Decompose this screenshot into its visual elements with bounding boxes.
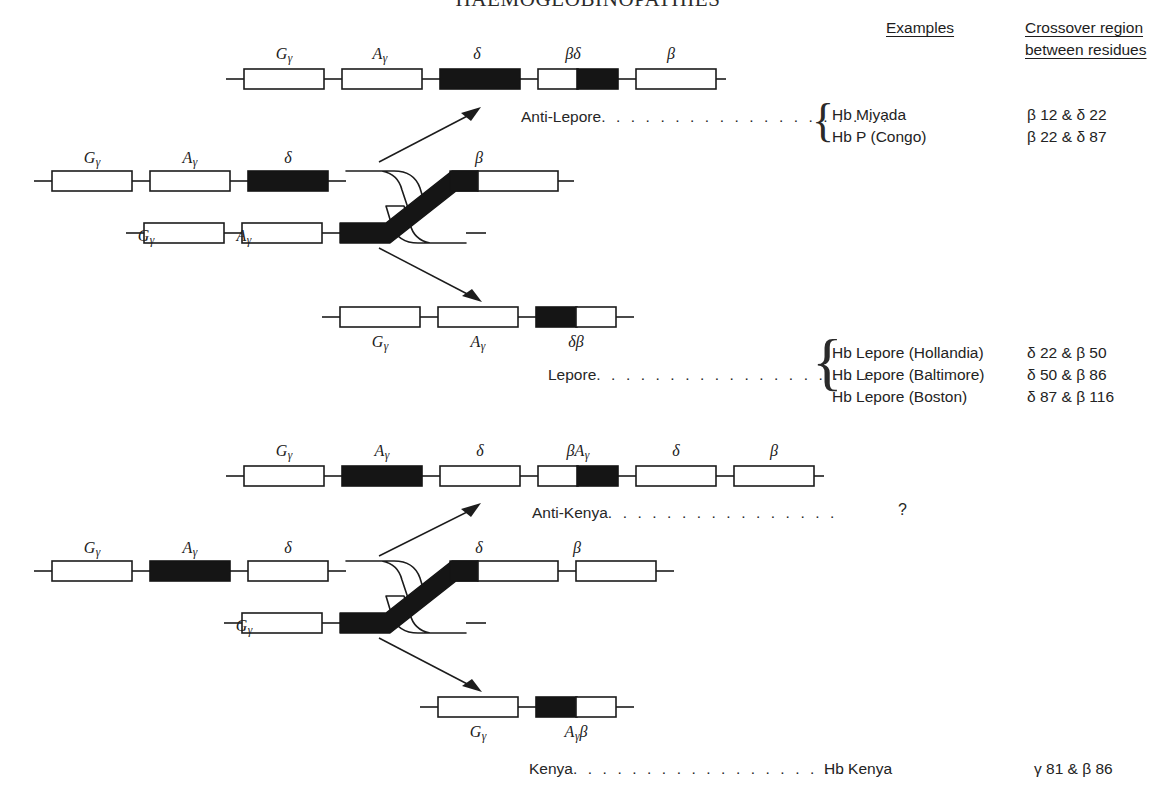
gene-label-a-gamma: Aγ <box>373 46 388 65</box>
gene-label-delta: δ <box>476 443 483 459</box>
gene-label-beta: β <box>475 150 483 166</box>
gene-label-g-gamma: Gγ <box>84 540 101 559</box>
crossover-value: δ 87 & β 116 <box>1027 388 1114 406</box>
gene-label-a-gamma: Aγ <box>471 334 486 353</box>
arrow-to-lepore <box>375 244 487 306</box>
gene-label-delta: δ <box>473 46 480 62</box>
parent-chromosomes-kenya <box>34 558 674 640</box>
parent-chromosomes-lepore <box>34 168 574 250</box>
gene-label-g-gamma: Gγ <box>470 724 487 743</box>
gene-label-beta: β <box>667 46 675 62</box>
anti-kenya-path-label: Anti-Kenya. . . . . . . . . . . . . . . … <box>532 504 837 522</box>
example-name: Hb Lepore (Baltimore) <box>832 366 984 384</box>
examples-column-header: Examples <box>886 20 954 36</box>
gene-label-delta: δ <box>475 540 482 556</box>
gene-label-delta-beta: δβ <box>568 334 583 350</box>
figure-title: HAEMOGLOBINOPATHIES <box>0 0 1176 12</box>
example-name: Hb Lepore (Hollandia) <box>832 344 984 362</box>
gene-label-g-gamma: Gγ <box>372 334 389 353</box>
kenya-chromosome <box>420 694 634 720</box>
lepore-chromosome <box>322 304 634 330</box>
gene-label-a-gamma: Aγ <box>183 540 198 559</box>
anti-kenya-chromosome <box>226 463 824 489</box>
gene-label-a-gamma: Aγ <box>183 150 198 169</box>
gene-label-a-gamma: Aγ <box>237 228 252 247</box>
gene-label-g-gamma: Gγ <box>276 46 293 65</box>
gene-label-beta: β <box>573 540 581 556</box>
crossover-value: γ 81 & β 86 <box>1034 760 1113 778</box>
anti-lepore-chromosome <box>226 66 726 92</box>
crossover-value: δ 22 & β 50 <box>1027 344 1107 362</box>
crossover-column-header-line2: between residues <box>1025 42 1147 58</box>
gene-label-g-gamma: Gγ <box>138 228 155 247</box>
crossover-value: δ 50 & β 86 <box>1027 366 1107 384</box>
lepore-examples-brace: { <box>812 330 843 394</box>
example-name: Hb Miyada <box>832 106 906 124</box>
gene-label-delta: δ <box>284 540 291 556</box>
figure-canvas: HAEMOGLOBINOPATHIES Examples Crossover r… <box>0 0 1176 806</box>
gene-label-beta-delta: βδ <box>565 46 580 62</box>
arrow-to-anti-kenya <box>375 500 485 560</box>
kenya-path-label: Kenya. . . . . . . . . . . . . . . . . .… <box>529 760 847 778</box>
example-name: Hb Lepore (Boston) <box>832 388 967 406</box>
gene-label-g-gamma: Gγ <box>236 618 253 637</box>
arrow-to-kenya <box>375 634 487 696</box>
crossover-value: β 22 & δ 87 <box>1027 128 1107 146</box>
crossover-value: β 12 & δ 22 <box>1027 106 1107 124</box>
gene-label-beta-a-gamma: βAγ <box>567 443 590 462</box>
gene-label-a-gamma: Aγ <box>375 443 390 462</box>
example-name: Hb Kenya <box>824 760 892 778</box>
example-name: Hb P (Congo) <box>832 128 926 146</box>
gene-label-a-gamma-beta: Aγβ <box>565 724 588 743</box>
gene-label-delta: δ <box>284 150 291 166</box>
gene-label-g-gamma: Gγ <box>276 443 293 462</box>
anti-lepore-examples-brace: { <box>812 98 834 144</box>
gene-label-beta: β <box>770 443 778 459</box>
gene-label-g-gamma: Gγ <box>84 150 101 169</box>
gene-label-delta: δ <box>672 443 679 459</box>
anti-kenya-unknown-example: ? <box>898 501 907 519</box>
arrow-to-anti-lepore <box>375 104 485 166</box>
crossover-column-header-line1: Crossover region <box>1025 20 1143 36</box>
